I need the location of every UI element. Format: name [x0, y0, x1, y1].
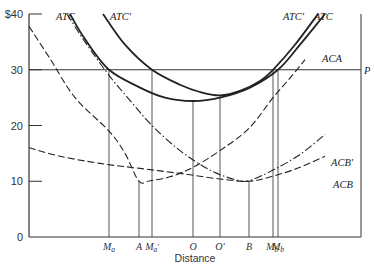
- curve-aca: [29, 26, 305, 183]
- curve-atc: [70, 14, 325, 101]
- x-marker-label: O: [189, 241, 196, 252]
- series-label: ATC': [282, 11, 305, 22]
- x-marker-label: Ma: [102, 241, 115, 254]
- x-marker-label: O': [215, 241, 225, 252]
- vertical-guide-lines: MaAMa'OO'BMb'Mb: [102, 70, 284, 254]
- curve-acb: [29, 148, 325, 182]
- y-tick-label: 20: [11, 120, 23, 132]
- series-label: ACB': [330, 157, 354, 168]
- x-axis-title: Distance: [175, 252, 216, 264]
- y-tick-label: 30: [11, 64, 23, 76]
- cost-curves: [29, 14, 325, 183]
- curve-acb-prime: [67, 14, 325, 182]
- price-line-label: P: [363, 65, 371, 76]
- y-tick-label: $40: [5, 8, 23, 20]
- x-marker-label: A: [135, 241, 143, 252]
- chart-canvas: 0102030$40P MaAMa'OO'BMb'Mb ATCATC'ATC'A…: [0, 0, 374, 269]
- axes-frame: 0102030$40P: [5, 8, 371, 243]
- series-label: ATC': [109, 11, 132, 22]
- series-label: ACB: [332, 179, 353, 190]
- y-tick-label: 0: [17, 231, 23, 243]
- y-tick-label: 10: [11, 175, 23, 187]
- x-marker-label: B: [246, 241, 252, 252]
- series-label: ATC: [55, 11, 76, 22]
- series-label: ATC: [313, 11, 334, 22]
- x-marker-label: Ma': [144, 241, 159, 254]
- series-label: ACA: [321, 53, 342, 64]
